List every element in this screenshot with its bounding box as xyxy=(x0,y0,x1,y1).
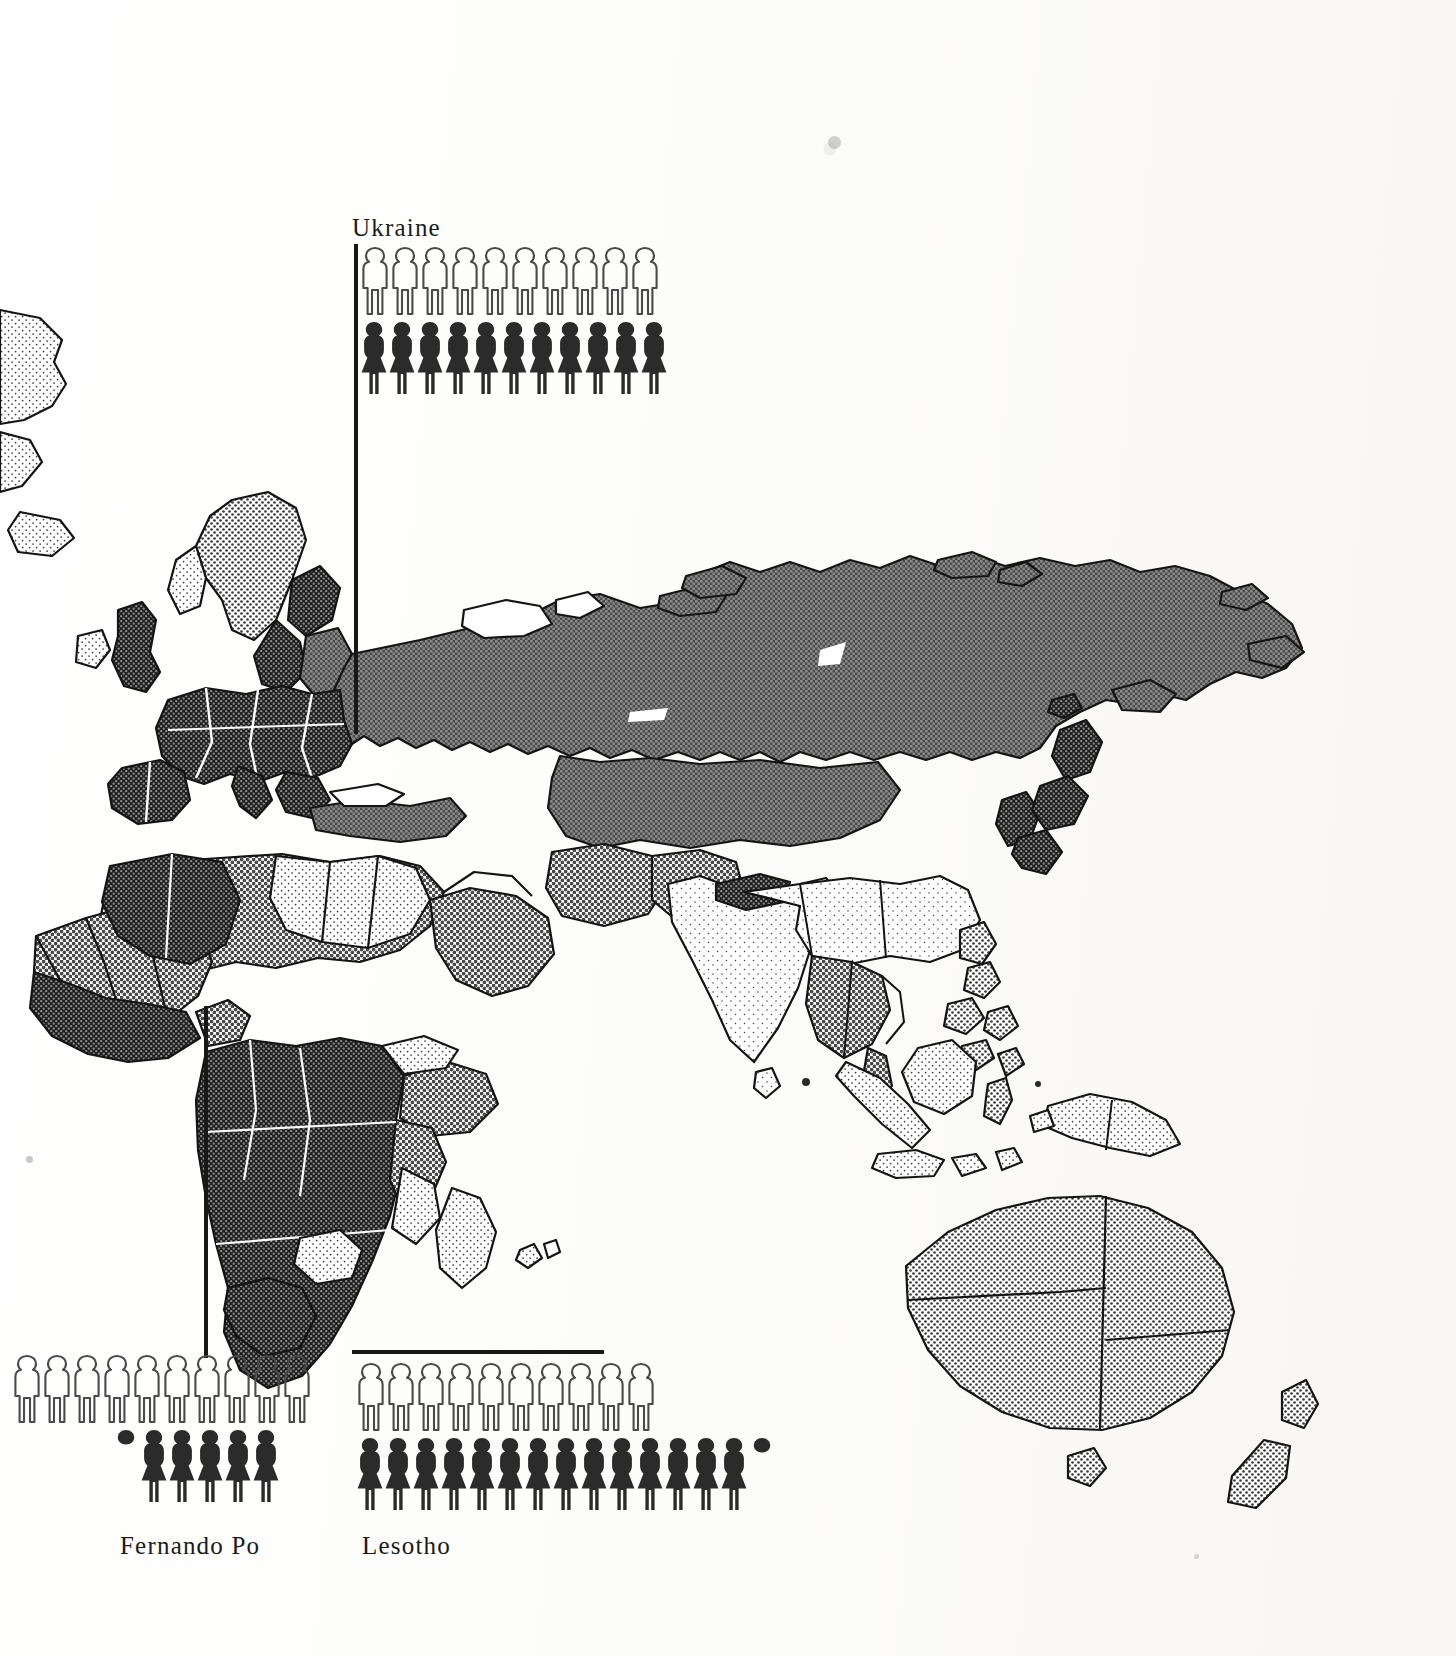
female-row-ukraine xyxy=(360,320,668,398)
male-figure-icon xyxy=(510,246,540,318)
male-figure-icon xyxy=(506,1362,536,1434)
male-figure-icon xyxy=(192,1354,222,1426)
male-figure-icon xyxy=(570,246,600,318)
male-figure-icon xyxy=(480,246,510,318)
scan-speck xyxy=(828,136,841,149)
female-figure-icon xyxy=(496,1436,524,1514)
female-row-lesotho xyxy=(356,1436,776,1514)
pictogram-label-fernando-po: Fernando Po xyxy=(120,1532,260,1560)
female-figure-icon xyxy=(388,320,416,398)
female-figure-icon xyxy=(608,1436,636,1514)
male-row-ukraine xyxy=(360,246,660,318)
male-figure-icon xyxy=(282,1354,312,1426)
female-figure-icon xyxy=(412,1436,440,1514)
partial-female-figure-icon xyxy=(112,1428,140,1506)
male-figure-icon xyxy=(360,246,390,318)
pictogram-label-ukraine: Ukraine xyxy=(352,214,441,242)
male-figure-icon xyxy=(42,1354,72,1426)
female-figure-icon xyxy=(356,1436,384,1514)
male-figure-icon xyxy=(72,1354,102,1426)
scan-speck xyxy=(26,1156,33,1163)
female-figure-icon xyxy=(636,1436,664,1514)
female-row-fernando-po xyxy=(112,1428,280,1506)
female-figure-icon xyxy=(440,1436,468,1514)
male-figure-icon xyxy=(476,1362,506,1434)
leader-line-ukraine xyxy=(354,244,358,734)
male-figure-icon xyxy=(540,246,570,318)
female-figure-icon xyxy=(664,1436,692,1514)
male-figure-icon xyxy=(102,1354,132,1426)
male-figure-icon xyxy=(222,1354,252,1426)
male-figure-icon xyxy=(600,246,630,318)
male-figure-icon xyxy=(446,1362,476,1434)
male-figure-icon xyxy=(252,1354,282,1426)
male-figure-icon xyxy=(630,246,660,318)
female-figure-icon xyxy=(252,1428,280,1506)
female-figure-icon xyxy=(224,1428,252,1506)
male-figure-icon xyxy=(416,1362,446,1434)
female-figure-icon xyxy=(500,320,528,398)
male-figure-icon xyxy=(596,1362,626,1434)
male-figure-icon xyxy=(132,1354,162,1426)
female-figure-icon xyxy=(384,1436,412,1514)
leader-line-fernando-po xyxy=(204,1006,208,1358)
female-figure-icon xyxy=(720,1436,748,1514)
female-figure-icon xyxy=(196,1428,224,1506)
female-figure-icon xyxy=(584,320,612,398)
male-row-fernando-po xyxy=(12,1354,312,1426)
male-figure-icon xyxy=(626,1362,656,1434)
female-figure-icon xyxy=(140,1428,168,1506)
female-figure-icon xyxy=(528,320,556,398)
male-figure-icon xyxy=(390,246,420,318)
scan-speck xyxy=(1194,1554,1199,1559)
female-figure-icon xyxy=(168,1428,196,1506)
leader-line-lesotho xyxy=(352,1350,604,1354)
female-figure-icon xyxy=(552,1436,580,1514)
male-figure-icon xyxy=(420,246,450,318)
female-figure-icon xyxy=(468,1436,496,1514)
female-figure-icon xyxy=(524,1436,552,1514)
male-figure-icon xyxy=(162,1354,192,1426)
female-figure-icon xyxy=(444,320,472,398)
pictogram-group-ukraine: Ukraine xyxy=(352,214,441,242)
male-figure-icon xyxy=(386,1362,416,1434)
female-figure-icon xyxy=(692,1436,720,1514)
male-figure-icon xyxy=(12,1354,42,1426)
female-figure-icon xyxy=(612,320,640,398)
female-figure-icon xyxy=(472,320,500,398)
male-figure-icon xyxy=(356,1362,386,1434)
female-figure-icon xyxy=(360,320,388,398)
male-figure-icon xyxy=(536,1362,566,1434)
male-figure-icon xyxy=(450,246,480,318)
female-figure-icon xyxy=(556,320,584,398)
female-figure-icon xyxy=(640,320,668,398)
male-figure-icon xyxy=(566,1362,596,1434)
female-figure-icon xyxy=(416,320,444,398)
pictogram-label-lesotho: Lesotho xyxy=(362,1532,451,1560)
male-row-lesotho xyxy=(356,1362,656,1434)
female-figure-icon xyxy=(580,1436,608,1514)
partial-female-figure-icon xyxy=(748,1436,776,1514)
